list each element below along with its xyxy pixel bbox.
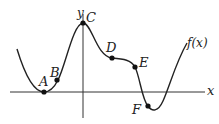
point-f-label: F [131,102,142,117]
point-b-label: B [49,65,60,80]
point-e [132,64,137,69]
curve-label: f(x) [186,36,208,50]
point-a-label: A [38,74,48,89]
point-e-label: E [138,55,149,70]
function-curve [17,23,187,110]
point-a [41,89,46,94]
point-d-label: D [105,40,117,55]
y-axis-label: y [76,6,84,20]
point-f [145,103,150,108]
x-axis-label: x [207,83,215,98]
point-c [80,20,85,25]
point-d [109,55,114,60]
function-graph: x y f(x) A B C D E F [0,0,219,124]
point-c-label: C [86,10,96,25]
